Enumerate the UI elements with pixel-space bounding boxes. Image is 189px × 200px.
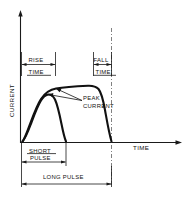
long-pulse-label: LONG PULSE — [43, 174, 84, 180]
peak-current-label-line2: CURRENT — [83, 103, 114, 109]
short-pulse-annotation: SHORT PULSE — [22, 143, 67, 166]
fall-time-annotation: FALL TIME — [94, 52, 117, 76]
short-pulse-label-line2: PULSE — [30, 155, 51, 161]
fall-time-label-line1: FALL — [94, 57, 109, 63]
waveform-svg: CURRENT TIME RISE TIME — [0, 0, 189, 200]
axis-group — [18, 10, 182, 145]
rise-left-arrowhead — [22, 63, 27, 66]
short-pulse-left-arrowhead — [22, 161, 27, 164]
x-axis-arrowhead — [176, 140, 183, 144]
x-axis-label: TIME — [133, 144, 149, 151]
fall-right-arrowhead — [107, 63, 112, 66]
fall-left-arrowhead — [94, 63, 99, 66]
rise-time-annotation: RISE TIME — [22, 52, 56, 76]
y-axis-label: CURRENT — [8, 84, 15, 117]
y-axis-arrowhead — [18, 10, 22, 17]
short-pulse-label-line1: SHORT — [29, 148, 51, 154]
pulse-waveform-figure: CURRENT TIME RISE TIME — [0, 0, 189, 200]
fall-time-label-line2: TIME — [96, 69, 111, 75]
rise-time-label-line2: TIME — [29, 69, 44, 75]
long-pulse-left-arrowhead — [22, 183, 27, 186]
long-pulse-right-arrowhead — [107, 183, 112, 186]
rise-right-arrowhead — [51, 63, 56, 66]
rise-time-label-line1: RISE — [29, 57, 44, 63]
short-pulse-right-arrowhead — [61, 161, 66, 164]
long-pulse-annotation: LONG PULSE — [22, 166, 112, 187]
short-pulse-curve — [23, 94, 67, 141]
peak-current-label-line1: PEAK — [83, 95, 100, 101]
